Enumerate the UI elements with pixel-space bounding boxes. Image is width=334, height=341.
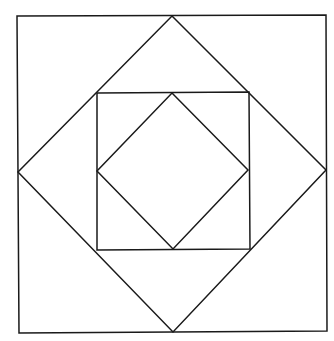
inner-diamond: [97, 93, 248, 249]
outer-square: [17, 15, 327, 333]
outer-diamond: [18, 16, 326, 332]
diagram-canvas: [0, 0, 334, 341]
inner-square: [97, 92, 250, 250]
nested-squares-diagram: [0, 0, 334, 341]
